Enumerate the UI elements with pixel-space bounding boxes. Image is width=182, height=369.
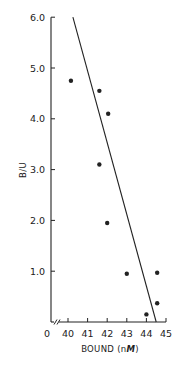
x-tick-label: 45 [160,328,172,339]
data-point [105,221,109,225]
data-points [69,79,160,317]
x-tick-label: 44 [140,328,152,339]
x-axis-title: BOUND (nM) [81,344,139,354]
y-tick-label: 2.0 [30,215,45,226]
data-point [155,271,159,275]
y-tick-label: 3.0 [30,164,45,175]
y-tick-label: 4.0 [30,113,45,124]
x-tick-label: 40 [62,328,74,339]
x-tick-label: 43 [121,328,133,339]
x-origin-label: 0 [44,328,50,339]
x-tick-label: 41 [82,328,94,339]
fit-line [73,17,156,322]
y-tick-label: 6.0 [30,12,45,23]
data-point [155,301,159,305]
data-point [125,272,129,276]
data-point [97,89,101,93]
data-point [69,79,73,83]
x-tick-label: 42 [101,328,113,339]
y-tick-label: 1.0 [30,266,45,277]
scatchard-plot: 1.02.03.04.05.06.0 4041424344450 B/U BOU… [0,0,182,369]
y-axis: 1.02.03.04.05.06.0 [30,12,55,322]
y-tick-label: 5.0 [30,63,45,74]
data-point [97,162,101,166]
x-axis: 4041424344450 [44,318,172,339]
y-axis-title: B/U [18,162,28,178]
data-point [144,312,148,316]
data-point [106,112,110,116]
